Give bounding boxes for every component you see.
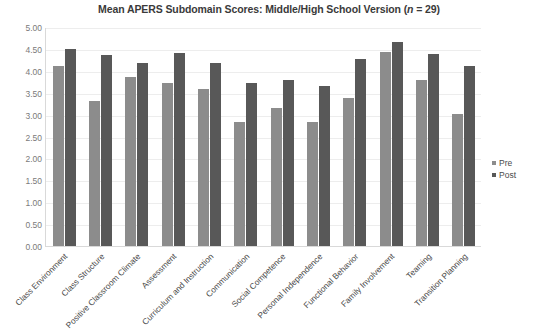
bar-post[interactable]	[464, 66, 475, 246]
bar-group	[53, 28, 76, 246]
bar-group	[271, 28, 294, 246]
chart-legend: PrePost	[492, 157, 516, 181]
bar-pre[interactable]	[234, 122, 245, 246]
bar-post[interactable]	[174, 53, 185, 246]
bar-pre[interactable]	[343, 98, 354, 246]
y-axis-tick-label: 3.00	[2, 111, 42, 121]
bar-pre[interactable]	[416, 80, 427, 246]
bar-group	[162, 28, 185, 246]
y-axis-tick-label: 1.50	[2, 176, 42, 186]
bar-pre[interactable]	[307, 122, 318, 246]
bar-pre[interactable]	[452, 114, 463, 246]
bar-group	[198, 28, 221, 246]
bar-pre[interactable]	[380, 52, 391, 246]
bar-post[interactable]	[392, 42, 403, 246]
bar-group	[89, 28, 112, 246]
y-axis-tick-label: 4.50	[2, 45, 42, 55]
bar-group	[416, 28, 439, 246]
bar-post[interactable]	[210, 63, 221, 246]
chart-title: Mean APERS Subdomain Scores: Middle/High…	[0, 3, 538, 15]
bar-post[interactable]	[319, 86, 330, 246]
bar-post[interactable]	[355, 59, 366, 246]
y-axis-tick-label: 1.00	[2, 198, 42, 208]
legend-item[interactable]: Pre	[492, 157, 516, 169]
bar-group	[125, 28, 148, 246]
y-axis-tick-label: 5.00	[2, 23, 42, 33]
bar-post[interactable]	[65, 49, 76, 246]
bar-post[interactable]	[283, 80, 294, 246]
bar-pre[interactable]	[198, 89, 209, 246]
y-axis-tick-label: 4.00	[2, 67, 42, 77]
bar-group	[307, 28, 330, 246]
bar-group	[234, 28, 257, 246]
bar-post[interactable]	[101, 55, 112, 246]
bar-chart: Mean APERS Subdomain Scores: Middle/High…	[0, 0, 538, 329]
legend-swatch-icon	[492, 173, 496, 177]
bar-post[interactable]	[246, 83, 257, 246]
bar-pre[interactable]	[125, 77, 136, 246]
legend-item[interactable]: Post	[492, 169, 516, 181]
bar-group	[452, 28, 475, 246]
legend-label: Pre	[499, 158, 512, 168]
y-axis-tick-label: 2.50	[2, 133, 42, 143]
bar-pre[interactable]	[89, 101, 100, 246]
legend-swatch-icon	[492, 161, 496, 165]
bar-pre[interactable]	[53, 66, 64, 246]
chart-title-main: Mean APERS Subdomain Scores: Middle/High…	[98, 3, 407, 15]
y-axis-tick-label: 0.50	[2, 220, 42, 230]
bar-post[interactable]	[428, 54, 439, 246]
y-axis-tick-label: 3.50	[2, 89, 42, 99]
legend-label: Post	[499, 170, 516, 180]
bar-post[interactable]	[137, 63, 148, 246]
bar-group	[380, 28, 403, 246]
bar-pre[interactable]	[162, 83, 173, 246]
plot-area	[45, 28, 481, 247]
y-axis-tick-label: 0.00	[2, 242, 42, 252]
chart-title-tail: = 29)	[413, 3, 440, 15]
y-axis-tick-label: 2.00	[2, 154, 42, 164]
bar-pre[interactable]	[271, 108, 282, 246]
bar-group	[343, 28, 366, 246]
